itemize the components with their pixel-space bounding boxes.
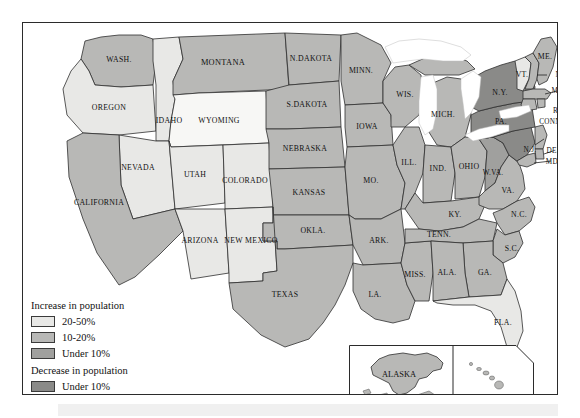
map-legend: Increase in population 20-50% 10-20% Und… — [31, 299, 181, 395]
state-OH[interactable] — [451, 137, 487, 199]
label-CT: CONN. — [539, 118, 557, 126]
state-AL[interactable] — [431, 241, 469, 301]
state-CO[interactable] — [223, 143, 273, 209]
state-NE[interactable] — [266, 127, 345, 169]
legend-label-decrease-under-10: Under 10% — [62, 381, 110, 393]
state-AZ[interactable] — [175, 209, 229, 279]
label-RI: R.I. — [553, 107, 557, 115]
state-MA[interactable] — [523, 89, 551, 99]
state-SD[interactable] — [266, 81, 341, 129]
inset-panel: ALASKA HAWAII — [349, 345, 534, 395]
state-KS[interactable] — [269, 167, 349, 215]
map-figure: WASH. OREGON IDAHO MONTANA WYOMING NEVAD… — [22, 22, 558, 395]
legend-row-20-50: 20-50% — [31, 314, 181, 329]
inset-label-hawaii: HAWAII — [478, 393, 508, 395]
state-NM[interactable] — [225, 207, 277, 283]
legend-heading-decrease: Decrease in population — [31, 364, 181, 377]
legend-label-10-20: 10-20% — [62, 332, 95, 344]
state-NJ[interactable] — [535, 125, 547, 149]
label-NH: N.H. — [555, 71, 557, 79]
legend-swatch-decrease-under-10 — [31, 381, 55, 392]
bottom-shadow-band — [58, 404, 558, 416]
legend-row-10-20: 10-20% — [31, 330, 181, 345]
inset-label-alaska: ALASKA — [382, 370, 416, 379]
leader-md — [534, 161, 551, 163]
legend-swatch-under-10 — [31, 348, 55, 359]
state-IA[interactable] — [345, 103, 393, 147]
state-WY[interactable] — [169, 91, 269, 147]
legend-swatch-10-20 — [31, 332, 55, 343]
state-DE[interactable] — [535, 149, 544, 159]
legend-heading-increase: Increase in population — [31, 299, 181, 312]
legend-row-under-10: Under 10% — [31, 346, 181, 361]
state-UT[interactable] — [169, 141, 225, 209]
state-MT[interactable] — [173, 33, 289, 95]
lake-superior — [385, 39, 471, 63]
leader-del — [544, 151, 553, 154]
legend-label-under-10: Under 10% — [62, 348, 110, 360]
state-RI[interactable] — [537, 99, 545, 108]
state-ND[interactable] — [285, 33, 341, 85]
label-DE: DEL. — [547, 147, 557, 155]
legend-row-decrease-under-10: Under 10% — [31, 379, 181, 394]
state-SC[interactable] — [493, 229, 523, 263]
legend-label-20-50: 20-50% — [62, 316, 95, 328]
state-IN[interactable] — [423, 145, 455, 203]
legend-swatch-20-50 — [31, 316, 55, 327]
label-MA: MASS. — [552, 87, 557, 95]
